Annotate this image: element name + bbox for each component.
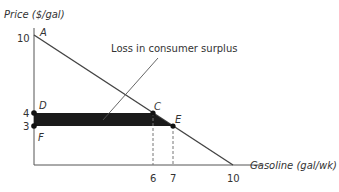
x-axis-label: Gasoline (gal/wk) bbox=[250, 160, 337, 171]
point-f-marker bbox=[31, 123, 37, 129]
y-tick-4: 4 bbox=[23, 108, 29, 119]
point-c-label: C bbox=[154, 101, 161, 112]
x-tick-6: 6 bbox=[150, 173, 156, 184]
point-d-label: D bbox=[39, 100, 47, 111]
annotation-label: Loss in consumer surplus bbox=[111, 43, 237, 54]
y-axis-label: Price ($/gal) bbox=[4, 9, 65, 20]
point-d-marker bbox=[31, 110, 37, 116]
point-f-label: F bbox=[38, 132, 44, 143]
demand-curve bbox=[34, 35, 233, 165]
x-tick-10: 10 bbox=[227, 173, 240, 184]
point-e-label: E bbox=[175, 114, 182, 125]
y-tick-10: 10 bbox=[17, 33, 30, 44]
y-tick-3: 3 bbox=[23, 121, 29, 132]
x-tick-7: 7 bbox=[170, 173, 176, 184]
consumer-surplus-chart: Price ($/gal) Gasoline (gal/wk) Loss in … bbox=[0, 0, 339, 192]
point-a-label: A bbox=[39, 27, 47, 38]
